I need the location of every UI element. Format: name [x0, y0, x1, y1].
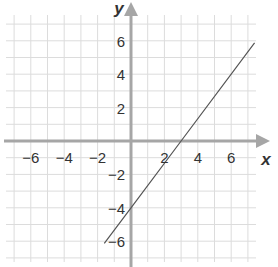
x-tick-label: −2	[89, 149, 106, 166]
y-axis-arrow-icon	[124, 2, 138, 16]
y-tick-label: −6	[108, 233, 125, 250]
y-tick-label: 6	[117, 33, 125, 50]
x-tick-label: −6	[22, 149, 39, 166]
x-tick-label: 6	[227, 149, 235, 166]
x-axis-label: x	[260, 150, 272, 169]
axes	[4, 2, 270, 267]
x-tick-label: 2	[160, 149, 168, 166]
y-tick-label: 2	[117, 100, 125, 117]
y-axis-label: y	[113, 0, 125, 18]
coordinate-plane: −6−4−2246642−2−4−6xy	[0, 0, 278, 267]
data-line	[104, 43, 254, 243]
x-tick-label: 4	[194, 149, 202, 166]
y-tick-label: −2	[108, 166, 125, 183]
plotted-line	[104, 43, 254, 243]
x-axis-arrow-icon	[256, 134, 270, 148]
x-tick-label: −4	[56, 149, 73, 166]
y-tick-label: 4	[117, 66, 125, 83]
y-tick-label: −4	[108, 200, 125, 217]
